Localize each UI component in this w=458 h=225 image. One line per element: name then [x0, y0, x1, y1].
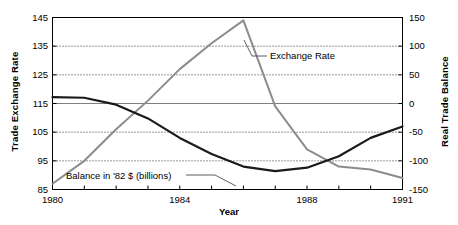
chart-container: Trade Exchange Rate Real Trade Balance Y…: [0, 0, 458, 225]
y-axis-right-tick-label: -50: [409, 127, 449, 137]
x-axis-tick-label: 1980: [42, 194, 63, 205]
y-axis-left-tick-label: 85: [8, 185, 48, 195]
x-axis-title: Year: [0, 206, 458, 217]
y-axis-right-labels: 150100500-50-100-150: [409, 0, 453, 225]
y-axis-left-tick-label: 135: [8, 41, 48, 51]
y-axis-right-tick-label: 150: [409, 13, 449, 23]
y-axis-left-tick-label: 145: [8, 13, 48, 23]
y-axis-left-tick-label: 105: [8, 127, 48, 137]
chart-canvas: [0, 0, 458, 225]
annotation-trade-balance: Balance in '82 $ (billions): [66, 170, 171, 181]
y-axis-right-tick-label: 0: [409, 99, 449, 109]
annotation-exchange-rate: Exchange Rate: [270, 50, 335, 61]
y-axis-right-tick-label: 50: [409, 70, 449, 80]
y-axis-left-tick-label: 95: [8, 156, 48, 166]
x-axis-tick-label: 1988: [296, 194, 317, 205]
x-axis-tick-label: 1991: [392, 194, 413, 205]
y-axis-left-tick-label: 115: [8, 99, 48, 109]
y-axis-right-tick-label: -150: [409, 185, 449, 195]
y-axis-left-labels: 1451351251151059585: [4, 0, 48, 225]
y-axis-left-tick-label: 125: [8, 70, 48, 80]
y-axis-right-tick-label: -100: [409, 156, 449, 166]
x-axis-tick-label: 1984: [169, 194, 190, 205]
y-axis-right-tick-label: 100: [409, 41, 449, 51]
